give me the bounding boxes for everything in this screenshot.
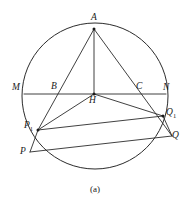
point-label-q1: Q1 — [166, 108, 176, 119]
vertex-dot-q1 — [162, 115, 165, 118]
point-label-p1: P1 — [24, 121, 33, 132]
point-label-a: A — [91, 13, 97, 23]
point-label-c: C — [136, 82, 142, 92]
segment-P-Q — [30, 136, 172, 152]
geometry-figure: ABCHMNP1Q1PQ (a) — [0, 0, 190, 207]
segment-H-Q1 — [94, 94, 163, 116]
point-label-q: Q — [172, 131, 179, 141]
point-label-m: M — [12, 83, 20, 93]
point-label-p: P — [20, 147, 26, 157]
vertex-dot-p1 — [37, 129, 40, 132]
cevian-A-P1 — [38, 29, 94, 130]
cevian-A-Q — [94, 29, 172, 136]
point-label-h: H — [89, 96, 96, 106]
point-label-n: N — [163, 83, 169, 93]
segment-P1-P — [30, 130, 38, 152]
figure-caption: (a) — [0, 184, 190, 194]
vertex-dot-a — [93, 28, 96, 31]
point-label-b: B — [51, 82, 57, 92]
